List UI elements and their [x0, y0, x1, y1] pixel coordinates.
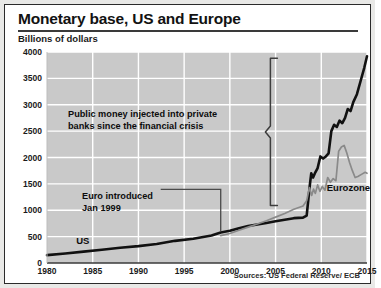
chart-source: Sources: US Federal Reserve/ ECB [234, 271, 360, 280]
y-tick-label: 1000 [12, 205, 42, 215]
annotation-crisis-note: Public money injected into privatebanks … [68, 109, 217, 132]
y-tick-label: 1500 [12, 179, 42, 189]
y-tick-label: 500 [12, 232, 42, 242]
annotation-euro-note: Euro introducedJan 1999 [82, 191, 153, 214]
annotation-line: Euro introduced [82, 191, 153, 203]
chart-frame: Monetary base, US and Europe Billions of… [4, 4, 371, 284]
y-tick-label: 4000 [12, 47, 42, 57]
plot-area: 05001000150020002500300035004000 1980198… [5, 5, 372, 285]
annotation-line: Jan 1999 [82, 203, 153, 215]
y-tick-label: 2500 [12, 126, 42, 136]
x-tick-label: 1985 [76, 266, 110, 276]
y-tick-label: 2000 [12, 153, 42, 163]
series-label-us: US [76, 235, 89, 246]
x-tick-label: 1980 [30, 266, 64, 276]
chart-svg [5, 5, 372, 285]
y-tick-label: 3500 [12, 73, 42, 83]
annotation-line: Public money injected into private [68, 109, 217, 121]
x-tick-label: 1990 [121, 266, 155, 276]
x-tick-label: 1995 [167, 266, 201, 276]
series-label-eurozone: Eurozone [327, 182, 370, 193]
annotation-line: banks since the financial crisis [68, 121, 217, 133]
y-tick-label: 3000 [12, 100, 42, 110]
